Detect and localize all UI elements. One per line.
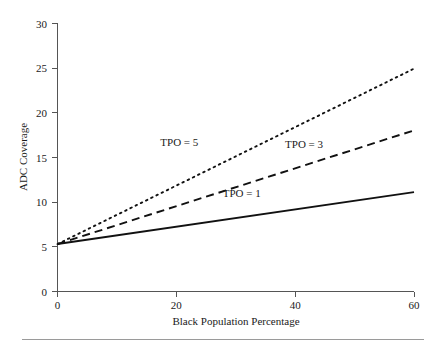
y-tick-label-25: 25: [36, 62, 48, 74]
x-axis-title: Black Population Percentage: [172, 315, 299, 327]
x-tick-label-40: 40: [290, 299, 302, 311]
chart-figure: 30 25 20 15 10 5 0 0 20 40 60 Black Popu…: [0, 0, 444, 347]
y-tick-label-30: 30: [36, 18, 48, 30]
y-tick-label-15: 15: [36, 152, 48, 164]
y-tick-label-5: 5: [42, 241, 48, 253]
y-axis-title: ADC Coverage: [17, 123, 29, 191]
x-tick-label-0: 0: [55, 299, 61, 311]
y-tick-label-10: 10: [36, 196, 48, 208]
series-label-tpo-1: TPO = 1: [223, 187, 261, 199]
x-tick-label-60: 60: [409, 299, 421, 311]
chart-background: [0, 0, 444, 347]
x-tick-label-20: 20: [171, 299, 183, 311]
y-tick-label-20: 20: [36, 107, 48, 119]
line-chart-svg: 30 25 20 15 10 5 0 0 20 40 60 Black Popu…: [0, 0, 444, 347]
series-label-tpo-5: TPO = 5: [160, 136, 198, 148]
series-label-tpo-3: TPO = 3: [285, 138, 323, 150]
y-tick-label-0: 0: [42, 286, 48, 298]
